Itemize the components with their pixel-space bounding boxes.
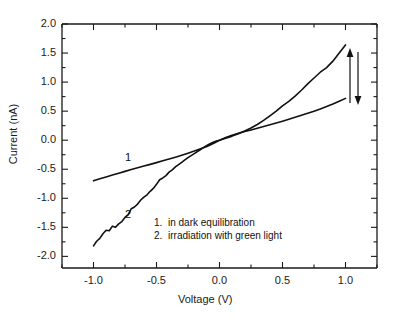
x-tick-label: 1.0	[326, 274, 366, 286]
x-tick-label: 0.5	[263, 274, 303, 286]
y-tick-label: 0.0	[22, 133, 56, 145]
legend: 1. in dark equilibration 2. irradiation …	[154, 216, 282, 242]
y-tick-label: -1.0	[22, 191, 56, 203]
y-axis-label: Current (nA)	[7, 94, 19, 174]
curve-2-tag: 2	[125, 208, 131, 220]
figure-page: Current (nA) Voltage (V) 2.01.51.00.50.0…	[0, 0, 397, 323]
curve-1-tag: 1	[125, 151, 131, 163]
y-tick-label: -1.5	[22, 220, 56, 232]
legend-number: 2.	[154, 229, 168, 242]
x-tick-label: -0.5	[137, 274, 177, 286]
x-tick-label: 0.0	[200, 274, 240, 286]
y-tick-label: 0.5	[22, 104, 56, 116]
y-tick-label: -2.0	[22, 249, 56, 261]
legend-number: 1.	[154, 216, 168, 229]
legend-label: irradiation with green light	[168, 229, 282, 242]
legend-item: 2. irradiation with green light	[154, 229, 282, 242]
y-tick-label: -0.5	[22, 162, 56, 174]
x-tick-label: -1.0	[74, 274, 114, 286]
legend-label: in dark equilibration	[168, 216, 255, 229]
y-tick-label: 1.5	[22, 46, 56, 58]
y-tick-label: 2.0	[22, 17, 56, 29]
legend-item: 1. in dark equilibration	[154, 216, 282, 229]
x-axis-label: Voltage (V)	[178, 293, 232, 305]
y-tick-label: 1.0	[22, 75, 56, 87]
